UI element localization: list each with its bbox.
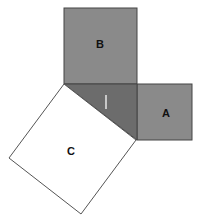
label-b: B	[96, 38, 104, 50]
pythagorean-diagram: B A C	[0, 0, 198, 218]
label-c: C	[67, 145, 75, 157]
label-a: A	[162, 107, 170, 119]
